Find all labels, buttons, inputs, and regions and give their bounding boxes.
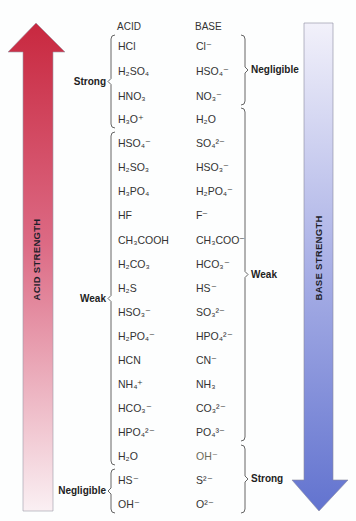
base-cell: S²⁻ <box>196 474 213 486</box>
acid-cell: HCl <box>118 40 136 52</box>
base-cell: F⁻ <box>196 209 208 221</box>
base-cell: SO₄²⁻ <box>196 137 225 149</box>
brace <box>108 35 115 128</box>
acid-cell: HF <box>118 209 132 221</box>
acid-cell: H₂SO₃ <box>118 161 149 173</box>
acid-cell: H₂PO₄⁻ <box>118 330 155 342</box>
acid-cell: HNO₃ <box>118 90 146 102</box>
brace <box>241 445 248 513</box>
acid-cell: H₃PO₄ <box>118 185 149 197</box>
diagram-graphics <box>0 0 356 521</box>
base-group-label: Weak <box>251 269 277 280</box>
base-cell: HPO₄²⁻ <box>196 330 233 342</box>
base-cell: NH₃ <box>196 378 215 390</box>
acid-cell: HPO₄²⁻ <box>118 426 155 438</box>
acid-group-label: Weak <box>80 293 106 304</box>
base-cell: CO₃²⁻ <box>196 402 226 414</box>
base-cell: PO₄³⁻ <box>196 426 225 438</box>
acid-group-label: Strong <box>74 76 106 87</box>
base-cell: OH⁻ <box>196 450 218 462</box>
acid-cell: H₂SO₄ <box>118 65 149 77</box>
base-column-header: BASE <box>195 21 222 32</box>
acid-cell: HCN <box>118 354 141 366</box>
acid-cell: H₂S <box>118 282 137 294</box>
base-group-label: Strong <box>251 473 283 484</box>
base-cell: HSO₄⁻ <box>196 65 229 77</box>
brace <box>241 108 248 441</box>
base-cell: HSO₃⁻ <box>196 161 229 173</box>
base-cell: Cl⁻ <box>196 40 212 52</box>
acid-cell: NH₄⁺ <box>118 378 143 390</box>
base-cell: H₂O <box>196 113 216 125</box>
acid-cell: CH₃COOH <box>118 234 169 246</box>
base-cell: CN⁻ <box>196 354 217 366</box>
base-cell: CH₃COO⁻ <box>196 234 245 246</box>
acid-cell: OH⁻ <box>118 498 140 510</box>
acid-cell: HCO₃⁻ <box>118 402 152 414</box>
group-brackets <box>108 35 248 513</box>
acid-cell: HS⁻ <box>118 474 139 486</box>
brace <box>108 132 115 465</box>
acid-cell: H₂CO₃ <box>118 258 150 270</box>
acid-strength-label: ACID STRENGTH <box>31 221 42 301</box>
base-group-label: Negligible <box>251 64 299 75</box>
base-cell: SO₃²⁻ <box>196 306 225 318</box>
base-cell: HCO₃⁻ <box>196 258 230 270</box>
acid-cell: HSO₃⁻ <box>118 306 151 318</box>
base-cell: H₂PO₄⁻ <box>196 185 233 197</box>
brace <box>241 35 248 105</box>
acid-group-label: Negligible <box>58 485 106 496</box>
brace <box>108 469 115 513</box>
base-strength-label: BASE STRENGTH <box>313 221 324 301</box>
acid-cell: H₃O⁺ <box>118 113 144 125</box>
acid-column-header: ACID <box>117 21 141 32</box>
base-cell: O²⁻ <box>196 498 214 510</box>
base-cell: HS⁻ <box>196 282 217 294</box>
acid-cell: HSO₄⁻ <box>118 137 151 149</box>
acid-cell: H₂O <box>118 450 138 462</box>
base-cell: NO₃⁻ <box>196 90 222 102</box>
